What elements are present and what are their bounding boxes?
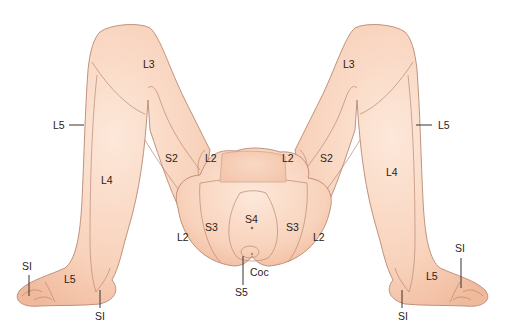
- label-left-l4: L4: [101, 174, 113, 186]
- label-right-l3: L3: [343, 58, 355, 70]
- label-right-foot-l5: L5: [426, 270, 438, 282]
- label-right-s2: S2: [320, 152, 333, 164]
- label-right-inner-l2: L2: [282, 152, 294, 164]
- label-left-l5: L5: [53, 119, 65, 131]
- label-left-heel-s1: SI: [95, 310, 105, 322]
- dermatome-diagram: L3 L5 S2 L2 L4 S3 L2 S4 Coc S5 L3 L5 S2 …: [0, 0, 505, 336]
- label-right-heel-s1: SI: [398, 310, 408, 322]
- label-left-toe-s1: SI: [22, 260, 32, 272]
- label-coccygeal: Coc: [250, 266, 269, 278]
- left-leg: [17, 25, 210, 307]
- label-s4: S4: [245, 213, 258, 225]
- label-left-inner-l2: L2: [205, 152, 217, 164]
- label-left-buttock-l2: L2: [177, 231, 189, 243]
- label-right-l5: L5: [438, 119, 450, 131]
- label-right-s3: S3: [286, 221, 299, 233]
- label-right-toe-s1: SI: [455, 242, 465, 254]
- label-left-l3: L3: [143, 58, 155, 70]
- label-s5: S5: [235, 286, 248, 298]
- label-right-buttock-l2: L2: [313, 231, 325, 243]
- label-left-s2: S2: [165, 152, 178, 164]
- upper-pad: [220, 151, 286, 182]
- label-right-l4: L4: [386, 166, 398, 178]
- label-left-s3: S3: [205, 221, 218, 233]
- left-limb-outline: [17, 25, 210, 307]
- label-left-foot-l5: L5: [64, 273, 76, 285]
